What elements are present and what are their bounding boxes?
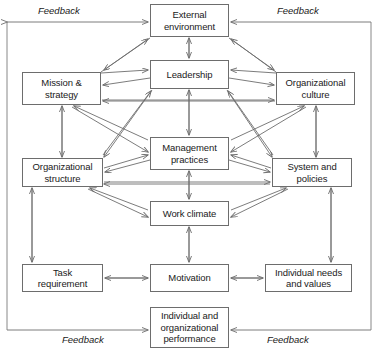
conn-mission-extenv-up — [101, 39, 148, 72]
node-label: Organizationalculture — [284, 77, 348, 100]
node-mission-strategy[interactable]: Mission &strategy — [22, 72, 101, 105]
node-label: Individual needsand values — [273, 267, 344, 290]
conn-leadership-culture-right — [229, 78, 274, 85]
node-label: Leadership — [164, 69, 214, 81]
node-work-climate[interactable]: Work climate — [150, 201, 229, 226]
feedback-label-top-left: Feedback — [38, 5, 80, 16]
conn-culture-extenv-up — [231, 39, 276, 72]
conn-climate-structure-left — [90, 188, 148, 210]
node-label: Individual andorganizationalperformance — [159, 310, 221, 345]
conn-structure-climate-right — [88, 189, 148, 217]
conn-climate-system-right — [231, 188, 286, 210]
node-management-practices[interactable]: Managementpractices — [150, 137, 229, 170]
node-label: System andpolicies — [285, 161, 338, 184]
feedback-label-top-right: Feedback — [277, 5, 319, 16]
node-label: Motivation — [166, 272, 212, 284]
node-individual-needs-and-values[interactable]: Individual needsand values — [265, 264, 352, 292]
conn-culture-mgmt-left — [231, 107, 306, 152]
conn-leadership-mission-left — [103, 78, 150, 85]
node-task-requirement[interactable]: Taskrequirement — [22, 264, 103, 292]
conn-system-climate-left — [231, 189, 288, 217]
node-label: Organizationalstructure — [31, 161, 95, 184]
node-label: Work climate — [161, 208, 219, 220]
node-leadership[interactable]: Leadership — [150, 60, 229, 89]
conn-culture-leadership-left — [231, 70, 276, 73]
node-system-and-policies[interactable]: System andpolicies — [272, 158, 352, 187]
node-organizational-culture[interactable]: Organizationalculture — [276, 72, 355, 105]
node-label: Externalenvironment — [162, 9, 217, 32]
node-individual-and-organizational-performance[interactable]: Individual andorganizationalperformance — [150, 307, 229, 348]
conn-mission-leadership-right — [101, 70, 148, 73]
node-label: Taskrequirement — [36, 267, 90, 290]
node-label: Managementpractices — [160, 142, 218, 165]
burke-litwin-diagram: Externalenvironment Mission &strategy Le… — [0, 0, 379, 358]
feedback-label-bottom-left: Feedback — [62, 334, 104, 345]
node-external-environment[interactable]: Externalenvironment — [150, 4, 229, 37]
feedback-label-bottom-right: Feedback — [267, 334, 309, 345]
node-label: Mission &strategy — [39, 77, 83, 100]
node-motivation[interactable]: Motivation — [150, 264, 229, 292]
node-organizational-structure[interactable]: Organizationalstructure — [22, 158, 103, 187]
